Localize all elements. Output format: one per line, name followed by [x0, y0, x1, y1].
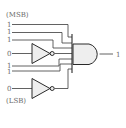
not-gate-triangle [32, 44, 50, 64]
input-label-5: 1 [7, 68, 11, 76]
lsb-label: (LSB) [6, 97, 26, 105]
logic-circuit-diagram: (MSB) 1 1 1 0 1 1 0 (LSB) 1 [0, 0, 126, 128]
wire-input-1 [12, 33, 72, 44]
not-gate-bubble [50, 87, 54, 91]
wire-input-5 [12, 64, 72, 71]
msb-label: (MSB) [6, 11, 29, 19]
not-gate-1 [32, 44, 54, 64]
input-label-2: 1 [7, 36, 11, 44]
not-gate-triangle [32, 79, 50, 99]
not-gate-bubble [50, 52, 54, 56]
input-label-3: 0 [7, 50, 11, 58]
wire-input-4 [12, 59, 72, 66]
and-gate [73, 44, 97, 65]
input-label-6: 0 [7, 85, 11, 93]
wire-input-2 [12, 40, 72, 48]
wire-input-6-out [55, 69, 73, 89]
not-gate-2 [32, 79, 54, 99]
output-label: 1 [116, 51, 120, 59]
wire-input-0 [12, 25, 72, 38]
